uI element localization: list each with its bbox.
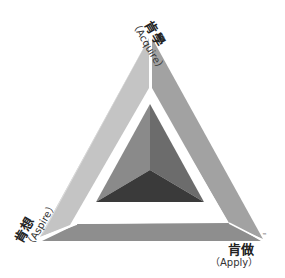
label-apply-zh: 肯做 bbox=[224, 243, 258, 256]
label-apply-en: （Apply） bbox=[210, 258, 258, 268]
label-apply: 肯做 （Apply） bbox=[210, 243, 258, 268]
trademark-symbol: ™ bbox=[262, 232, 267, 238]
